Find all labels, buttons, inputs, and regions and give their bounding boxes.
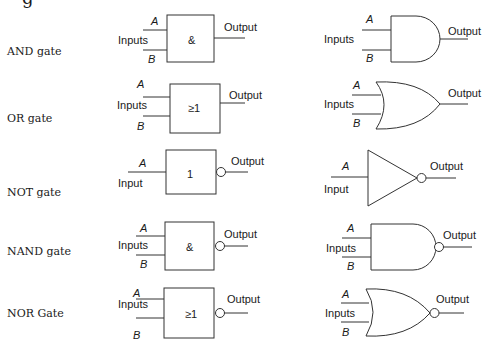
input-b-label: B xyxy=(137,120,144,132)
inputs-label: Inputs xyxy=(325,307,355,319)
and-shape xyxy=(391,16,440,62)
inputs-label: Inputs xyxy=(118,34,148,46)
or-shape xyxy=(376,82,440,129)
input-a-label: A xyxy=(136,78,144,90)
row-not: NOT gate A Input 1 Output A Input Output xyxy=(7,150,463,206)
row-or: OR gate A Inputs B ≥1 Output A Inputs B … xyxy=(7,78,481,133)
gate-symbol: 1 xyxy=(187,168,193,180)
gate-symbol: & xyxy=(188,34,196,46)
output-label: Output xyxy=(224,228,257,240)
nand-shape xyxy=(371,224,436,270)
input-b-label: B xyxy=(140,258,147,270)
nor-shape xyxy=(366,289,430,336)
input-a-label: A xyxy=(352,79,360,91)
inversion-bubble xyxy=(430,309,439,318)
output-label: Output xyxy=(224,21,257,33)
output-label: Output xyxy=(231,155,264,167)
iec-nor-symbol: A Inputs B ≥1 Output xyxy=(118,287,260,341)
gate-symbol: & xyxy=(186,241,194,253)
iec-and-symbol: A Inputs B & Output xyxy=(118,15,257,65)
input-b-label: B xyxy=(148,53,155,65)
output-label: Output xyxy=(227,293,260,305)
iec-nand-symbol: A Inputs B & Output xyxy=(118,222,257,270)
ansi-nor-symbol: A Inputs B Output xyxy=(325,288,469,338)
iec-not-symbol: A Input 1 Output xyxy=(118,150,264,194)
input-b-label: B xyxy=(353,117,360,129)
output-label: Output xyxy=(448,87,481,99)
gate-name: NOR Gate xyxy=(7,307,64,320)
output-label: Output xyxy=(229,89,262,101)
ansi-not-symbol: A Input Output xyxy=(324,150,463,206)
output-label: Output xyxy=(430,160,463,172)
gate-symbol: ≥1 xyxy=(185,308,197,320)
row-nand: NAND gate A Inputs B & Output A Inputs B… xyxy=(7,222,476,272)
input-label: Input xyxy=(324,183,348,195)
gate-name: NAND gate xyxy=(7,245,71,258)
input-a-label: A xyxy=(138,157,146,169)
ansi-and-symbol: A Inputs B Output xyxy=(324,13,481,64)
output-label: Output xyxy=(443,229,476,241)
ansi-or-symbol: A Inputs B Output xyxy=(324,79,481,129)
inputs-label: Inputs xyxy=(326,242,356,254)
row-and: AND gate A Inputs B & Output A Inputs B … xyxy=(6,13,481,65)
inputs-label: Inputs xyxy=(324,98,354,110)
iec-or-symbol: A Inputs B ≥1 Output xyxy=(117,78,262,133)
partial-heading: g xyxy=(22,0,34,8)
input-b-label: B xyxy=(342,326,349,338)
output-label: Output xyxy=(448,25,481,37)
row-nor: NOR Gate A Inputs B ≥1 Output A Inputs B… xyxy=(7,287,469,341)
inversion-bubble xyxy=(217,168,226,177)
inputs-label: Inputs xyxy=(118,298,148,310)
gate-name: NOT gate xyxy=(7,186,61,199)
inversion-bubble xyxy=(417,174,426,183)
input-label: Input xyxy=(118,177,142,189)
input-a-label: A xyxy=(139,222,147,234)
input-b-label: B xyxy=(133,329,140,341)
inputs-label: Inputs xyxy=(324,33,354,45)
input-a-label: A xyxy=(341,288,349,300)
logic-gates-diagram: g AND gate A Inputs B & Output A Inputs … xyxy=(0,0,483,345)
inputs-label: Inputs xyxy=(118,239,148,251)
gate-symbol: ≥1 xyxy=(188,102,200,114)
inversion-bubble xyxy=(435,243,444,252)
gate-name: OR gate xyxy=(7,112,52,125)
gate-name: AND gate xyxy=(6,45,61,58)
input-b-label: B xyxy=(347,260,354,272)
inversion-bubble xyxy=(216,242,225,251)
input-a-label: A xyxy=(365,13,373,25)
output-label: Output xyxy=(436,293,469,305)
ansi-nand-symbol: A Inputs B Output xyxy=(326,222,476,272)
input-a-label: A xyxy=(346,222,354,234)
not-triangle xyxy=(368,150,417,206)
inputs-label: Inputs xyxy=(117,99,147,111)
input-a-label: A xyxy=(150,15,158,27)
input-a-label: A xyxy=(341,160,349,172)
input-b-label: B xyxy=(366,52,373,64)
inversion-bubble xyxy=(216,309,225,318)
